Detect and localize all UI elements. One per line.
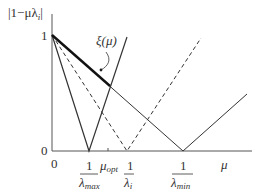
svg-text:λmax: λmax (78, 175, 100, 191)
x-origin-label: 0 (51, 156, 58, 171)
annotation-dot-icon (100, 69, 103, 72)
x-tick-lambda-max: 1 λmax (78, 158, 100, 191)
xi-annotation-label: ξ(μ) (96, 33, 117, 48)
svg-text:1: 1 (86, 158, 93, 173)
y-axis-label: |1−μλi| (8, 5, 43, 22)
svg-text:λmin: λmin (170, 175, 191, 191)
series-lambda-max (52, 35, 127, 151)
x-tick-lambda-min: 1 λmin (170, 158, 193, 191)
x-tick-mu-opt: μopt (99, 158, 119, 174)
svg-text:1: 1 (180, 158, 187, 173)
series-lambda-i (52, 35, 201, 151)
y-tick-0: 0 (41, 143, 48, 158)
svg-text:λi: λi (123, 175, 133, 191)
x-axis-label: μ (220, 157, 228, 172)
chart: |1−μλi| 1 0 0 ξ(μ) 1 λmax μopt 1 λi 1 λm… (0, 0, 261, 195)
svg-text:μopt: μopt (99, 158, 119, 174)
annotation-arrow (101, 52, 109, 70)
y-tick-1: 1 (41, 28, 48, 43)
svg-text:1: 1 (127, 158, 134, 173)
series-lambda-min (52, 35, 247, 151)
x-tick-lambda-i: 1 λi (123, 158, 134, 191)
